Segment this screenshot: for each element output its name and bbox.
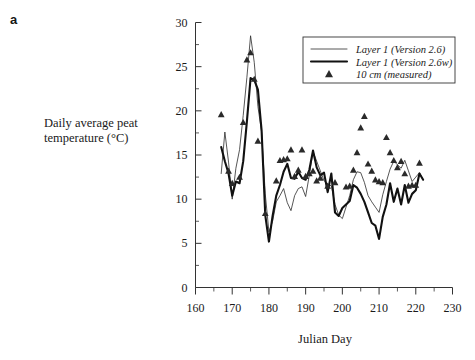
- y-axis-tick-label: 20: [176, 104, 188, 118]
- measured-data-marker: [387, 149, 394, 155]
- legend-label: Layer 1 (Version 2.6): [355, 44, 446, 56]
- measured-data-marker: [273, 177, 280, 183]
- x-axis-tick-label: 210: [370, 301, 388, 315]
- x-axis-tick-label: 230: [444, 301, 462, 315]
- legend-label: 10 cm (measured): [356, 69, 432, 81]
- x-axis-tick-label: 200: [333, 301, 351, 315]
- x-axis-tick-label: 180: [260, 301, 278, 315]
- x-axis-tick-label: 190: [297, 301, 315, 315]
- chart-container: a Daily average peat temperature (°C) Ju…: [0, 0, 475, 360]
- chart-plot: 051015202530160170180190200210220230 Lay…: [0, 0, 475, 360]
- x-axis-tick-label: 160: [187, 301, 205, 315]
- x-axis-tick-label: 220: [407, 301, 425, 315]
- measured-data-marker: [361, 113, 368, 119]
- measured-data-marker: [350, 167, 357, 173]
- measured-data-marker: [284, 155, 291, 161]
- y-axis-tick-label: 10: [176, 192, 188, 206]
- measured-data-marker: [244, 56, 251, 62]
- y-axis-tick-label: 30: [176, 16, 188, 30]
- measured-data-marker: [240, 119, 247, 125]
- measured-data-marker: [383, 134, 390, 140]
- y-axis-title: Daily average peat temperature (°C): [44, 116, 169, 146]
- legend-label: Layer 1 (Version 2.6w): [355, 57, 453, 69]
- measured-data-marker: [357, 124, 364, 130]
- x-axis-tick-label: 170: [223, 301, 241, 315]
- x-axis-title: Julian Day: [250, 332, 400, 347]
- y-axis-tick-label: 15: [176, 148, 188, 162]
- measured-data-marker: [416, 160, 423, 166]
- measured-data-marker: [368, 168, 375, 174]
- y-axis-tick-label: 0: [182, 281, 188, 295]
- measured-data-marker: [218, 111, 225, 117]
- chart-legend: Layer 1 (Version 2.6)Layer 1 (Version 2.…: [303, 37, 455, 83]
- measured-data-marker: [365, 160, 372, 166]
- measured-data-marker: [262, 210, 269, 216]
- measured-data-marker: [288, 146, 295, 152]
- measured-data-marker: [401, 170, 408, 176]
- measured-data-marker: [354, 149, 361, 155]
- y-axis-tick-label: 25: [176, 60, 188, 74]
- panel-label-a: a: [10, 12, 17, 27]
- y-axis-tick-label: 5: [182, 236, 188, 250]
- measured-data-marker: [299, 146, 306, 152]
- measured-data-marker: [398, 158, 405, 164]
- measured-data-marker: [255, 137, 262, 143]
- y-axis-title-line-1: Daily average peat: [44, 116, 169, 131]
- measured-data-marker: [295, 167, 302, 173]
- measured-data-marker: [390, 157, 397, 163]
- y-axis-title-line-2: temperature (°C): [44, 131, 169, 146]
